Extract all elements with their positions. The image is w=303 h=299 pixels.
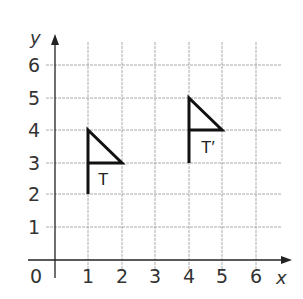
y-tick-2: 2: [28, 183, 40, 205]
y-tick-5: 5: [28, 87, 40, 109]
grid-lines: [46, 42, 282, 270]
y-axis-label: y: [29, 27, 41, 48]
x-tick-2: 2: [116, 265, 128, 287]
y-tick-1: 1: [28, 216, 40, 238]
x-tick-labels: 1 2 3 4 5 6: [82, 265, 262, 287]
x-tick-4: 4: [183, 265, 195, 287]
origin-label: 0: [30, 265, 42, 287]
x-axis-label: x: [275, 267, 287, 288]
x-tick-5: 5: [216, 265, 228, 287]
shape-label-T-prime: T′: [201, 138, 215, 157]
coordinate-grid: T T′ y x 0 1 2 3 4 5 6 1 2 3 4 5 6: [0, 0, 303, 299]
x-tick-1: 1: [82, 265, 94, 287]
y-tick-3: 3: [28, 152, 40, 174]
shape-label-T: T: [98, 170, 108, 189]
y-tick-4: 4: [28, 119, 40, 141]
x-tick-3: 3: [149, 265, 161, 287]
x-tick-6: 6: [250, 265, 262, 287]
y-tick-labels: 1 2 3 4 5 6: [28, 54, 40, 238]
axes: [28, 34, 292, 278]
y-tick-6: 6: [28, 54, 40, 76]
